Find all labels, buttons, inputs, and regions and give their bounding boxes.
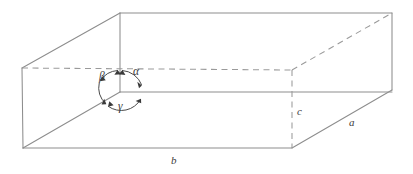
edge-hidden-back-receding: [292, 13, 392, 70]
edge-top-left-receding: [22, 13, 120, 68]
edge-label-b: b: [171, 155, 177, 166]
edge-label-c: c: [297, 106, 302, 117]
angle-label-beta: β: [99, 71, 105, 83]
angle-label-gamma: γ: [118, 101, 123, 113]
solid-edges-group: [22, 13, 392, 148]
edge-label-a: a: [349, 117, 355, 128]
hidden-edges-group: [22, 13, 392, 148]
edge-bottom-left-receding: [23, 92, 120, 148]
unit-cell-box-drawing: [0, 0, 413, 174]
figure-root: a b c α β γ: [0, 0, 413, 174]
angle-label-alpha: α: [133, 66, 139, 78]
arrow-gamma-start: [108, 101, 114, 107]
edge-bottom-right-receding: [292, 90, 392, 148]
edge-hidden-back-horizontal: [22, 68, 292, 70]
edge-left-vertical-back: [22, 68, 23, 148]
